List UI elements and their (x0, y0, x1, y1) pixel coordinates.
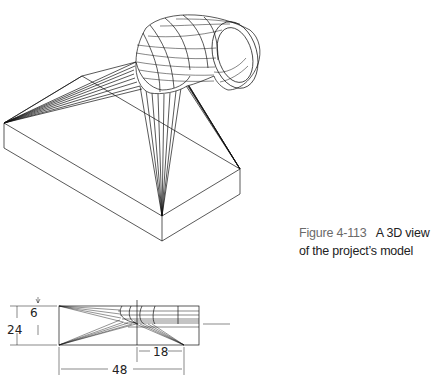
figure-caption: Figure 4-113 A 3D view of the project’s … (299, 224, 435, 260)
dimension-18: 18 (153, 345, 168, 359)
isometric-view (4, 15, 265, 241)
dimension-6: 6 (30, 306, 38, 320)
dimension-48: 48 (112, 363, 127, 377)
figure-number: Figure 4-113 (299, 226, 367, 240)
technical-drawing: 6 24 18 48 (0, 0, 435, 384)
dimension-24: 24 (7, 323, 22, 337)
